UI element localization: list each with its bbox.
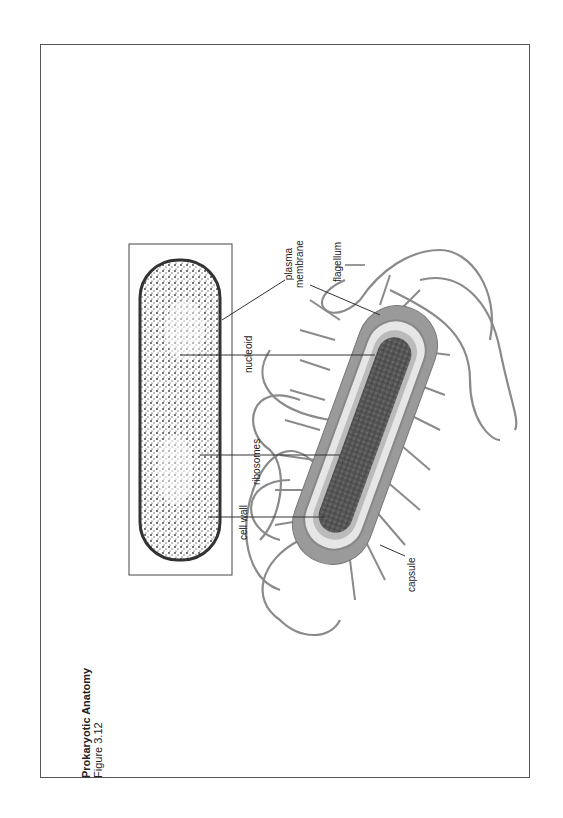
label-capsule: capsule bbox=[406, 558, 417, 592]
micrograph bbox=[129, 244, 232, 575]
label-nucleoid: nucleoid bbox=[243, 336, 254, 373]
label-flagellum: flagellum bbox=[332, 242, 343, 282]
label-plasma-membrane: plasma membrane bbox=[283, 240, 305, 288]
label-cell-wall: cell wall bbox=[238, 505, 249, 540]
diagram-artwork bbox=[0, 0, 563, 818]
label-ribosomes: ribosomes bbox=[251, 439, 262, 485]
bacterium bbox=[281, 294, 449, 575]
